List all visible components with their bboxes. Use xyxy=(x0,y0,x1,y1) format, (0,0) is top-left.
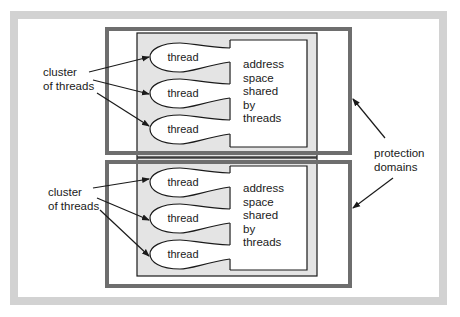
protection-domains-label: domains xyxy=(374,161,417,175)
thread-label: thread xyxy=(150,212,216,225)
arrow-to-protection-domain-top xyxy=(353,99,385,138)
thread-label: thread xyxy=(150,87,216,100)
thread-label: thread xyxy=(150,51,216,64)
threads-protection-domains-diagram: thread thread thread thread thread threa… xyxy=(0,0,460,317)
protection-domains-label: protection xyxy=(374,147,425,161)
cluster-label: of threads xyxy=(43,80,94,94)
thread-label: thread xyxy=(150,123,216,136)
address-space-label: address space shared by threads xyxy=(243,182,284,250)
thread-label: thread xyxy=(150,176,216,189)
arrow-to-protection-domain-bottom xyxy=(353,178,393,208)
cluster-label: of threads xyxy=(48,200,99,214)
cluster-label: cluster xyxy=(43,66,77,80)
address-space-label: address space shared by threads xyxy=(243,58,284,126)
cluster-label: cluster xyxy=(48,186,82,200)
thread-label: thread xyxy=(150,248,216,261)
